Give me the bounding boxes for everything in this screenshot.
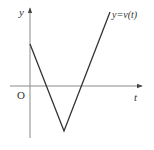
velocity-curve bbox=[30, 12, 110, 131]
t-axis-label: t bbox=[134, 91, 138, 103]
curve-label: y=v(t) bbox=[111, 9, 138, 21]
velocity-time-graph: y O t y=v(t) bbox=[0, 0, 154, 150]
origin-label: O bbox=[17, 89, 25, 101]
y-axis-label: y bbox=[18, 6, 24, 18]
